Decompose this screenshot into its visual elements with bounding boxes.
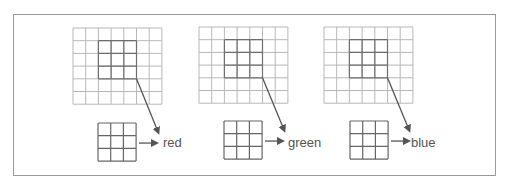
panel-red bbox=[73, 28, 162, 161]
mapping-arrow-icon bbox=[263, 78, 285, 131]
kernel-grid bbox=[224, 121, 262, 159]
label-green: green bbox=[288, 136, 321, 149]
highlight-window bbox=[349, 40, 387, 78]
highlight-window bbox=[224, 40, 262, 78]
label-red: red bbox=[163, 136, 182, 149]
kernel-grid bbox=[350, 121, 388, 159]
diagram-canvas bbox=[0, 0, 505, 186]
mapping-arrow-icon bbox=[137, 79, 159, 133]
panel-blue bbox=[324, 27, 413, 159]
mapping-arrow-icon bbox=[388, 78, 410, 131]
label-blue: blue bbox=[411, 136, 436, 149]
kernel-grid bbox=[98, 123, 136, 161]
panel-green bbox=[199, 27, 288, 159]
highlight-window bbox=[98, 41, 136, 79]
